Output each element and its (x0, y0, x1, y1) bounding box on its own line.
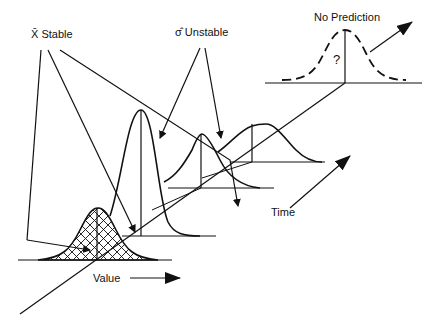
xbar-pointer-3 (60, 50, 238, 206)
xbar-pointer-1 (27, 50, 41, 240)
diagram-canvas (0, 0, 439, 328)
question-mark: ? (333, 52, 340, 67)
xbar-stable-label: X̄ Stable (31, 28, 73, 40)
time-arrow (290, 156, 350, 208)
time-axis-line (20, 83, 345, 314)
hatched-distribution (18, 208, 172, 260)
sigma-pointer-1 (160, 48, 200, 138)
no-prediction-distribution (265, 30, 422, 83)
value-axis-label: Value (93, 272, 120, 284)
time-axis-label: Time (271, 206, 295, 218)
no-prediction-arrow (370, 22, 412, 52)
sigma-unstable-label: σ̂ Unstable (175, 26, 228, 38)
tall-distribution (110, 110, 216, 236)
medium-distribution (152, 134, 274, 210)
sigma-pointer-2 (205, 48, 221, 138)
xbar-pointer-2 (48, 50, 135, 232)
no-prediction-label: No Prediction (314, 11, 380, 23)
